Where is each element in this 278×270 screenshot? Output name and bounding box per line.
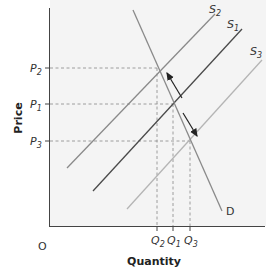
x-axis-title: Quantity <box>127 255 181 268</box>
label-demand: D <box>226 205 234 218</box>
price-tick-3: P3 <box>30 135 42 150</box>
quantity-tick-1: Q1 <box>167 234 181 249</box>
quantity-tick-3: Q3 <box>184 234 198 249</box>
origin-label: O <box>38 240 47 253</box>
price-tick-2: P2 <box>30 62 42 77</box>
quantity-tick-2: Q2 <box>151 234 165 249</box>
y-axis-title: Price <box>12 102 25 133</box>
price-tick-1: P1 <box>30 98 42 113</box>
plot-area <box>50 0 266 226</box>
supply-demand-chart: P2P1P3Q2Q1Q3 S2 S1 S3 D O Quantity Price <box>0 0 278 270</box>
